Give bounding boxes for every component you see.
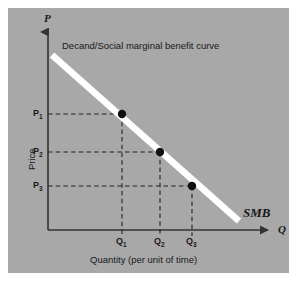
x-tick-sub-q3: 3 — [193, 241, 197, 248]
guide-lines — [48, 114, 192, 236]
figure-container: P Q Decand/Social marginal benefit curve… — [0, 0, 299, 286]
axis-lines — [48, 32, 268, 230]
y-tick-sub-p2: 2 — [39, 151, 43, 158]
curve-annotation: Decand/Social marginal benefit curve — [62, 41, 219, 51]
x-tick-base-q2: Q — [154, 236, 161, 246]
y-axis-title: Price — [27, 148, 37, 170]
x-axis-symbol: Q — [278, 224, 286, 235]
x-tick-sub-q1: 1 — [123, 241, 127, 248]
x-tick-label-q1: Q1 — [116, 237, 127, 248]
x-tick-base-q3: Q — [186, 236, 193, 246]
y-axis-symbol: P — [44, 13, 51, 24]
smb-curve-label: SMB — [243, 206, 270, 219]
x-axis-title: Quantity (per unit of time) — [90, 255, 197, 265]
x-tick-sub-q2: 2 — [161, 241, 165, 248]
y-tick-sub-p3: 3 — [39, 185, 43, 192]
data-point-2 — [156, 148, 164, 156]
y-tick-label-p3: P3 — [33, 181, 43, 192]
smb-demand-curve — [52, 55, 239, 221]
data-point-3 — [188, 182, 196, 190]
x-tick-label-q3: Q3 — [186, 237, 197, 248]
y-tick-sub-p1: 1 — [39, 113, 43, 120]
x-tick-label-q2: Q2 — [154, 237, 165, 248]
x-tick-base-q1: Q — [116, 236, 123, 246]
data-point-1 — [118, 110, 126, 118]
y-tick-label-p1: P1 — [33, 109, 43, 120]
